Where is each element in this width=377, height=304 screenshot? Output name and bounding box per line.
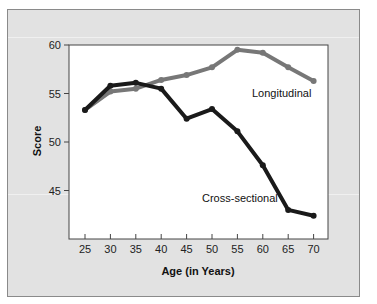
y-tick-label: 45	[49, 185, 61, 197]
x-tick-label: 50	[206, 243, 218, 255]
x-axis-title: Age (in Years)	[161, 265, 234, 277]
x-tick-label: 60	[257, 243, 269, 255]
data-point	[133, 86, 139, 92]
y-axis-title: Score	[31, 126, 43, 157]
data-point	[285, 207, 291, 213]
x-tick-label: 70	[307, 243, 319, 255]
data-point	[158, 77, 164, 83]
line-chart: 45505560 25303540455055606570 Longitudin…	[0, 0, 377, 304]
data-point	[107, 83, 113, 89]
data-point	[133, 80, 139, 86]
data-point	[234, 47, 240, 53]
y-tick-label: 60	[49, 39, 61, 51]
data-point	[158, 86, 164, 92]
data-point	[285, 64, 291, 70]
x-tick-label: 65	[282, 243, 294, 255]
data-point	[209, 106, 215, 112]
data-point	[311, 213, 317, 219]
data-point	[260, 162, 266, 168]
x-tick-label: 25	[79, 243, 91, 255]
y-axis: 45505560	[49, 39, 69, 197]
cross-sectional-label: Cross-sectional	[202, 192, 278, 204]
x-tick-label: 35	[130, 243, 142, 255]
data-point	[82, 107, 88, 113]
data-point	[311, 78, 317, 84]
data-point	[184, 116, 190, 122]
data-point	[260, 50, 266, 56]
data-point	[184, 72, 190, 78]
x-tick-label: 45	[180, 243, 192, 255]
x-tick-label: 55	[231, 243, 243, 255]
y-tick-label: 55	[49, 88, 61, 100]
longitudinal-label: Longitudinal	[252, 87, 311, 99]
x-tick-label: 30	[104, 243, 116, 255]
x-tick-label: 40	[155, 243, 167, 255]
y-tick-label: 50	[49, 136, 61, 148]
data-point	[209, 64, 215, 70]
data-point	[234, 128, 240, 134]
